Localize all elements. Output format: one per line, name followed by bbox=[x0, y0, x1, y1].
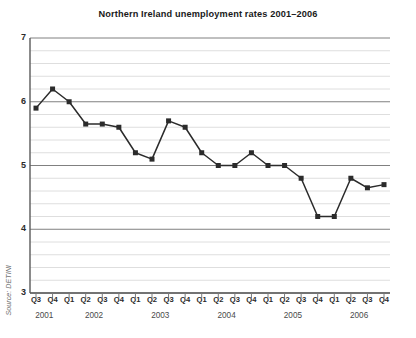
data-point-marker bbox=[348, 176, 353, 181]
data-point-marker bbox=[382, 182, 387, 187]
data-point-marker bbox=[266, 163, 271, 168]
x-axis-year-label: 2003 bbox=[137, 311, 183, 320]
data-point-marker bbox=[332, 214, 337, 219]
x-axis-quarter-label: Q4 bbox=[371, 295, 397, 304]
data-point-marker bbox=[199, 150, 204, 155]
data-point-marker bbox=[249, 150, 254, 155]
data-point-marker bbox=[365, 185, 370, 190]
line-chart-svg bbox=[30, 38, 390, 293]
x-axis-year-labels: 200120022003200420052006 bbox=[30, 311, 390, 329]
data-point-marker bbox=[133, 150, 138, 155]
chart-title: Northern Ireland unemployment rates 2001… bbox=[0, 9, 416, 19]
data-point-marker bbox=[83, 122, 88, 127]
data-point-marker bbox=[67, 99, 72, 104]
data-point-marker bbox=[100, 122, 105, 127]
data-point-marker bbox=[166, 118, 171, 123]
data-point-marker bbox=[282, 163, 287, 168]
data-point-marker bbox=[315, 214, 320, 219]
x-axis-year-label: 2005 bbox=[270, 311, 316, 320]
x-axis-year-label: 2002 bbox=[71, 311, 117, 320]
data-point-marker bbox=[216, 163, 221, 168]
data-point-marker bbox=[232, 163, 237, 168]
data-point-marker bbox=[116, 125, 121, 130]
y-axis-tick-labels: 76543 bbox=[6, 38, 26, 293]
x-axis-year-label: 2006 bbox=[336, 311, 382, 320]
y-axis-tick-label: 4 bbox=[10, 223, 26, 233]
y-axis-tick-label: 7 bbox=[10, 32, 26, 42]
plot-area bbox=[30, 38, 390, 293]
data-point-marker bbox=[183, 125, 188, 130]
y-axis-tick-label: 5 bbox=[10, 160, 26, 170]
x-axis-year-label: 2004 bbox=[204, 311, 250, 320]
data-point-marker bbox=[34, 106, 39, 111]
data-point-marker bbox=[50, 87, 55, 92]
chart-figure: Northern Ireland unemployment rates 2001… bbox=[0, 0, 416, 338]
data-point-marker bbox=[299, 176, 304, 181]
data-point-marker bbox=[150, 157, 155, 162]
y-axis-tick-label: 6 bbox=[10, 96, 26, 106]
x-axis-year-label: 2001 bbox=[21, 311, 67, 320]
